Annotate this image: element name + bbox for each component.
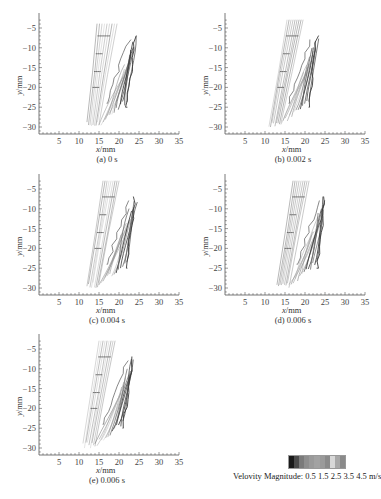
x-tick-label: 5: [57, 297, 61, 307]
y-axis-label: y/mm: [14, 76, 24, 95]
streamlines: [87, 181, 137, 287]
y-tick-label: −5: [213, 184, 222, 194]
y-tick-label: −30: [23, 443, 36, 453]
panel-caption: (d) 0.006 s: [186, 315, 374, 325]
y-tick-label: −20: [209, 243, 222, 253]
plot-area: −5−10−15−20−25−305101520253035: [0, 0, 188, 162]
y-tick-label: −15: [209, 224, 222, 234]
y-tick-label: −10: [23, 43, 36, 53]
x-axis-label: x/mm: [282, 144, 301, 154]
y-tick-label: −5: [213, 23, 222, 33]
streamlines: [83, 341, 133, 448]
y-tick-label: −30: [209, 283, 222, 293]
colorbar: [288, 455, 346, 469]
chart-panel-a: −5−10−15−20−25−305101520253035y/mmx/mm(a…: [0, 0, 188, 162]
x-tick-label: 20: [115, 136, 124, 146]
x-tick-label: 25: [135, 457, 144, 467]
x-tick-label: 30: [155, 457, 164, 467]
x-tick-label: 20: [115, 297, 124, 307]
x-tick-label: 30: [341, 297, 350, 307]
x-tick-label: 20: [301, 297, 310, 307]
x-tick-label: 25: [135, 297, 144, 307]
x-tick-label: 25: [321, 136, 330, 146]
x-tick-label: 30: [155, 136, 164, 146]
colorbar-swatch: [340, 456, 345, 468]
x-tick-label: 10: [261, 136, 270, 146]
x-tick-label: 25: [135, 136, 144, 146]
y-tick-label: −30: [23, 283, 36, 293]
y-tick-label: −25: [209, 102, 222, 112]
velocity-legend: Velovity Magnitude: 0.5 1.5 2.5 3.5 4.5 …: [233, 455, 377, 485]
y-tick-label: −25: [23, 263, 36, 273]
plot-area: −5−10−15−20−25−305101520253035: [0, 161, 188, 323]
x-tick-label: 5: [57, 136, 61, 146]
plot-area: −5−10−15−20−25−305101520253035: [186, 161, 374, 323]
y-tick-label: −20: [23, 82, 36, 92]
x-axis-label: x/mm: [96, 465, 115, 475]
panel-caption: (e) 0.006 s: [0, 475, 188, 485]
x-tick-label: 10: [261, 297, 270, 307]
y-tick-label: −5: [27, 344, 36, 354]
y-tick-label: −10: [209, 204, 222, 214]
y-tick-label: −15: [23, 63, 36, 73]
x-axis-label: x/mm: [282, 305, 301, 315]
y-tick-label: −20: [23, 243, 36, 253]
y-tick-label: −15: [209, 63, 222, 73]
x-tick-label: 30: [155, 297, 164, 307]
y-axis-label: y/mm: [200, 76, 210, 95]
y-tick-label: −15: [23, 224, 36, 234]
x-axis-label: x/mm: [96, 144, 115, 154]
chart-panel-c: −5−10−15−20−25−305101520253035y/mmx/mm(c…: [0, 161, 188, 323]
chart-panel-d: −5−10−15−20−25−305101520253035y/mmx/mm(d…: [186, 161, 374, 323]
chart-panel-b: −5−10−15−20−25−305101520253035y/mmx/mm(b…: [186, 0, 374, 162]
y-tick-label: −25: [23, 102, 36, 112]
x-tick-label: 35: [175, 457, 184, 467]
x-tick-label: 5: [243, 136, 247, 146]
x-tick-label: 35: [361, 297, 370, 307]
y-tick-label: −30: [209, 122, 222, 132]
y-tick-label: −5: [27, 184, 36, 194]
streamlines: [277, 181, 325, 287]
x-tick-label: 30: [341, 136, 350, 146]
y-tick-label: −10: [23, 204, 36, 214]
streamlines: [269, 20, 319, 127]
y-axis-label: y/mm: [200, 237, 210, 256]
y-axis-label: y/mm: [14, 237, 24, 256]
y-tick-label: −15: [23, 384, 36, 394]
y-tick-label: −25: [209, 263, 222, 273]
streamlines: [87, 24, 136, 126]
x-tick-label: 35: [361, 136, 370, 146]
x-tick-label: 10: [75, 136, 84, 146]
x-tick-label: 35: [175, 136, 184, 146]
x-tick-label: 10: [75, 297, 84, 307]
legend-label: Velovity Magnitude: 0.5 1.5 2.5 3.5 4.5 …: [233, 471, 381, 481]
x-tick-label: 25: [321, 297, 330, 307]
plot-area: −5−10−15−20−25−305101520253035: [0, 321, 188, 483]
x-tick-label: 10: [75, 457, 84, 467]
x-tick-label: 5: [57, 457, 61, 467]
y-tick-label: −10: [209, 43, 222, 53]
chart-panel-e: −5−10−15−20−25−305101520253035y/mmx/mm(e…: [0, 321, 188, 483]
y-tick-label: −30: [23, 122, 36, 132]
y-tick-label: −20: [209, 82, 222, 92]
y-tick-label: −10: [23, 364, 36, 374]
y-axis-label: y/mm: [14, 397, 24, 416]
x-tick-label: 20: [115, 457, 124, 467]
y-tick-label: −5: [27, 23, 36, 33]
x-tick-label: 5: [243, 297, 247, 307]
y-tick-label: −20: [23, 403, 36, 413]
axes: [39, 13, 179, 134]
x-axis-label: x/mm: [96, 305, 115, 315]
y-tick-label: −25: [23, 423, 36, 433]
plot-area: −5−10−15−20−25−305101520253035: [186, 0, 374, 162]
x-tick-label: 35: [175, 297, 184, 307]
x-tick-label: 20: [301, 136, 310, 146]
